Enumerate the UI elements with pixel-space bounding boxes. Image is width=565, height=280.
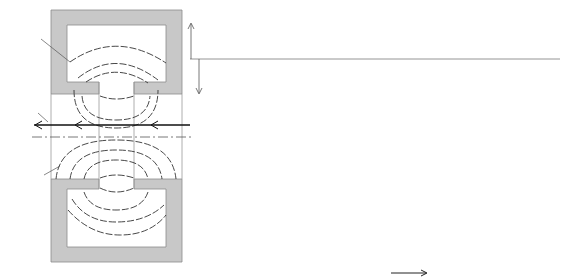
electron-leader xyxy=(38,113,48,122)
bunching-panel xyxy=(391,270,427,276)
cavity-panel xyxy=(32,10,194,262)
lower-cavity-wall xyxy=(51,179,182,262)
upper-cavity-wall xyxy=(51,10,182,94)
klystron-diagram xyxy=(0,0,565,280)
field-leader xyxy=(44,166,60,175)
field-waveform-panel xyxy=(188,23,560,94)
